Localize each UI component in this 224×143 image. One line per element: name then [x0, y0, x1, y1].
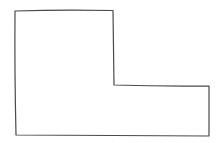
l-shape-diagram — [0, 0, 224, 143]
background — [0, 0, 224, 143]
